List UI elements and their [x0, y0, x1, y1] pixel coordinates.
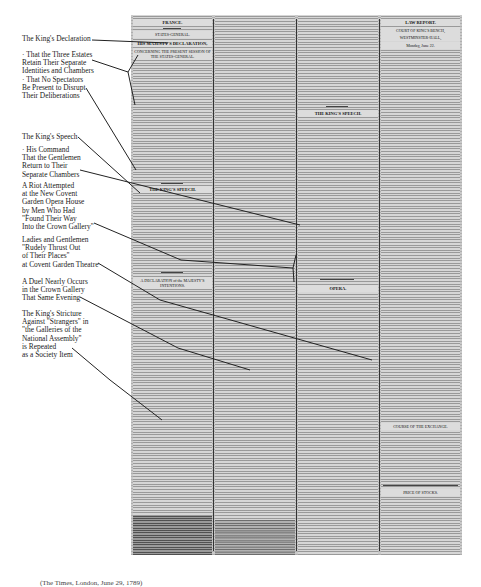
footer-caption: (The Times, London, June 29, 1789) — [40, 579, 142, 587]
